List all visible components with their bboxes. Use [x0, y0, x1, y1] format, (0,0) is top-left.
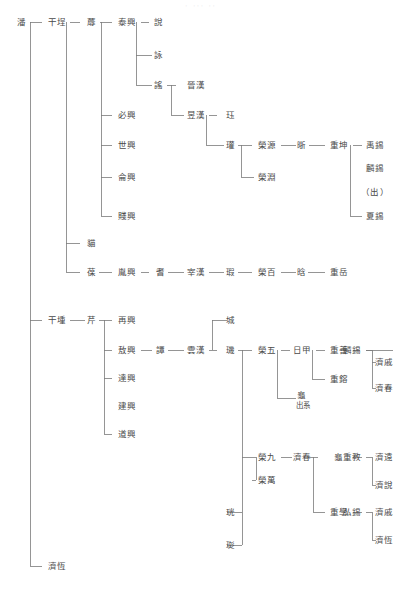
node-jewon[interactable]: 濟遠 [375, 452, 394, 462]
node-jeham[interactable]: 濟戚 [375, 507, 394, 517]
node-jeche-a[interactable]: 濟戚 [375, 357, 394, 367]
node-jeseol[interactable]: 濟說 [375, 480, 394, 490]
node-jehang[interactable]: 濟恆 [375, 535, 394, 545]
node-jecheun[interactable]: 濟春 [375, 383, 394, 393]
rightmost-branch-lines [0, 0, 403, 592]
